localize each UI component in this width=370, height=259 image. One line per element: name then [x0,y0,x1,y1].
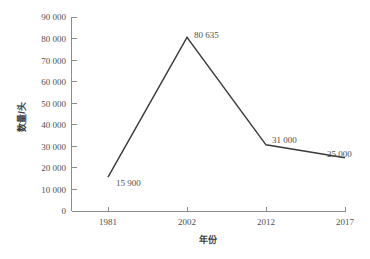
x-tick-labels: 1981 2002 2012 2017 [99,217,355,227]
y-tick-label-70000: 70 000 [41,56,66,66]
x-tick-label-2017: 2017 [336,217,355,227]
y-tick-label-50000: 50 000 [41,99,66,109]
y-axis-title: 数量/头 [16,102,27,132]
data-point-labels: 15 900 80 635 31 000 25 000 [116,30,352,188]
y-tick-label-90000: 90 000 [41,12,66,22]
x-tick-label-2012: 2012 [257,217,275,227]
point-label-2002: 80 635 [194,30,219,40]
y-tick-label-30000: 30 000 [41,142,66,152]
x-tick-marks [108,207,345,212]
x-axis-title: 年份 [199,234,218,245]
y-tick-label-80000: 80 000 [41,34,66,44]
x-tick-label-2002: 2002 [178,217,196,227]
y-tick-labels: 90 000 80 000 70 000 60 000 50 000 40 00… [41,12,66,216]
y-tick-label-60000: 60 000 [41,77,66,87]
x-axis-group: 1981 2002 2012 2017 年份 [72,207,355,246]
y-tick-label-10000: 10 000 [41,185,66,195]
point-label-1981: 15 900 [116,178,141,188]
series-line-quantity [108,37,345,177]
y-axis-group: 90 000 80 000 70 000 60 000 50 000 40 00… [16,12,77,216]
x-tick-label-1981: 1981 [99,217,117,227]
y-tick-label-40000: 40 000 [41,120,66,130]
data-series-group [108,37,345,177]
point-label-2012: 31 000 [272,135,297,145]
y-tick-label-20000: 20 000 [41,163,66,173]
point-label-2017: 25 000 [327,149,352,159]
y-tick-marks [72,17,77,189]
line-chart: 90 000 80 000 70 000 60 000 50 000 40 00… [0,0,370,259]
chart-canvas: 90 000 80 000 70 000 60 000 50 000 40 00… [0,0,370,259]
y-tick-label-0: 0 [62,206,67,216]
